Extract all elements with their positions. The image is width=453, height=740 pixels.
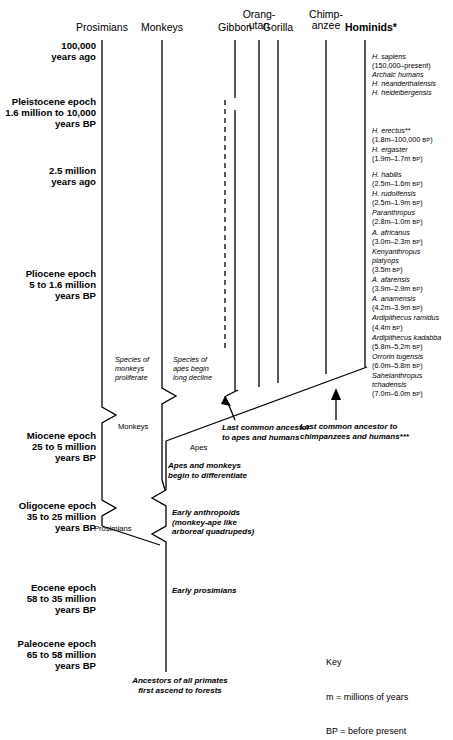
key-box: Key m = millions of years BP = before pr…: [326, 634, 452, 740]
epoch-label-miocene: Miocene epoch 25 to 5 million years BP: [0, 430, 96, 464]
species-range: (6.0m–5.8m BP): [372, 361, 453, 371]
species-name: H. ergaster: [372, 145, 453, 154]
species-name: Paranthropus: [372, 208, 453, 217]
key-line-m: m = millions of years: [326, 692, 452, 704]
species-name: H. heidelbergensis: [372, 88, 453, 97]
hominid-group-australopithecines: H. habilis(2.5m–1.6m BP)H. rudolfensis(2…: [372, 170, 453, 399]
annotation-apes-branch: Apes: [190, 443, 224, 452]
prosimians-lineage: [102, 40, 116, 526]
species-name: A. afarensis: [372, 275, 453, 284]
species-range: (2.5m–1.9m BP): [372, 198, 453, 208]
bp-abbrev: BP: [410, 239, 420, 245]
hominid-group-erectus: H. erectus**(1.8m–100,000 BP)H. ergaster…: [372, 126, 453, 164]
bp-abbrev: BP: [410, 200, 420, 206]
species-range: (3.9m–2.9m BP): [372, 284, 453, 294]
species-name: H. neanderthalensis: [372, 79, 453, 88]
species-name: Archaic humans: [372, 70, 453, 79]
epoch-label-paleocene: Paleocene epoch 65 to 58 million years B…: [0, 638, 96, 672]
bp-abbrev: BP: [410, 156, 420, 162]
bp-abbrev: BP: [410, 305, 420, 311]
species-range: (2.8m–1.0m BP): [372, 217, 453, 227]
hominid-group-sapiens: H. sapiens(150,000–present)Archaic human…: [372, 52, 453, 97]
species-range: (150,000–present): [372, 61, 453, 70]
species-name: Kenyanthropus: [372, 247, 453, 256]
bp-abbrev: BP: [410, 219, 420, 225]
species-name: Ardipithecus kadabba: [372, 333, 453, 342]
column-header-hominids: Hominids*: [334, 22, 408, 33]
bp-abbrev: BP: [390, 267, 400, 273]
monkeys-to-stem: [162, 480, 165, 490]
annotation-early-anthropoids: Early anthropoids (monkey-ape like arbor…: [172, 508, 302, 537]
species-name: H. erectus**: [372, 126, 453, 135]
annotation-apes-decline: Species of apes begin long decline: [173, 355, 229, 382]
bp-abbrev: BP: [420, 137, 430, 143]
species-range: (1.8m–100,000 BP): [372, 135, 453, 145]
annotation-early-prosimians: Early prosimians: [172, 586, 292, 596]
key-line-bp: BP = before present: [326, 726, 452, 738]
epoch-label-100k: 100,000 years ago: [0, 40, 96, 62]
epoch-label-2500k: 2.5 million years ago: [0, 165, 96, 187]
epoch-label-pleistocene: Pleistocene epoch 1.6 million to 10,000 …: [0, 96, 96, 130]
epoch-label-pliocene: Pliocene epoch 5 to 1.6 million years BP: [0, 268, 96, 302]
species-range: (5.8m–5.2m BP): [372, 342, 453, 352]
bp-abbrev: BP: [410, 286, 420, 292]
species-name: A. anamensis: [372, 294, 453, 303]
arrow-lca-chimps-humans: [331, 388, 341, 420]
species-range: (1.9m–1.7m BP): [372, 154, 453, 164]
annotation-monkeys-proliferate: Species of monkeys proliferate: [115, 355, 167, 382]
species-range: (3.5m BP): [372, 265, 453, 275]
annotation-lca-chimps-humans: Last common ancestor to chimpanzees and …: [300, 422, 450, 441]
lca-apes-humans-node: [226, 390, 238, 396]
annotation-ancestors-primates: Ancestors of all primates first ascend t…: [80, 676, 280, 695]
key-title: Key: [326, 657, 452, 669]
species-name: H. rudolfensis: [372, 189, 453, 198]
epoch-label-oligocene: Oligocene epoch 35 to 25 million years B…: [0, 500, 96, 534]
bp-abbrev: BP: [410, 391, 420, 397]
bp-abbrev: BP: [390, 325, 400, 331]
annotation-apes-monkeys-differentiate: Apes and monkeys begin to differentiate: [168, 461, 308, 480]
bp-abbrev: BP: [410, 181, 420, 187]
bp-abbrev: BP: [410, 344, 420, 350]
species-name: Orrorin tugensis: [372, 352, 453, 361]
species-range: (3.0m–2.3m BP): [372, 237, 453, 247]
species-name: Sahelanthropus: [372, 371, 453, 380]
arrow-lca-apes-humans: [221, 396, 235, 420]
annotation-monkeys-branch: Monkeys: [118, 422, 162, 431]
anthropoid-stem: [152, 490, 166, 672]
species-range: (4.2m–3.9m BP): [372, 303, 453, 313]
species-range: (4.4m BP): [372, 323, 453, 333]
species-range: (7.0m–6.0m BP): [372, 389, 453, 399]
monkeys-lineage: [162, 40, 176, 480]
species-name: Ardipithecus ramidus: [372, 313, 453, 322]
species-name: A. africanus: [372, 228, 453, 237]
column-header-gorilla: Gorilla: [250, 22, 306, 33]
column-header-monkeys: Monkeys: [122, 22, 202, 33]
species-name: H. habilis: [372, 170, 453, 179]
annotation-prosimians-branch: Prosimians: [94, 524, 156, 533]
epoch-label-eocene: Eocene epoch 58 to 35 million years BP: [0, 582, 96, 616]
species-name: H. sapiens: [372, 52, 453, 61]
species-name: platyops: [372, 256, 453, 265]
species-name: tchadensis: [372, 380, 453, 389]
species-range: (2.5m–1.6m BP): [372, 179, 453, 189]
bp-abbrev: BP: [410, 363, 420, 369]
